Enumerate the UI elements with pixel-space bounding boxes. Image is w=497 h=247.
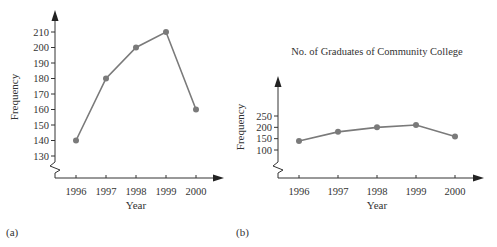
x-tick-label: 1996 [289,186,310,197]
x-tick-label: 1999 [406,186,427,197]
y-tick-label: 200 [256,122,272,133]
y-tick-label: 250 [256,111,272,122]
y-tick-label: 150 [33,120,49,131]
y-tick-label: 210 [33,27,49,38]
data-point [335,129,341,135]
chart-a-panel-label: (a) [6,226,19,239]
y-tick-label: 170 [33,89,49,100]
data-point [452,133,458,139]
chart-b-ylabel: Frequency [234,103,246,150]
data-point [374,124,380,130]
chart-a: 130140150160170180190200210 199619971998… [6,10,224,239]
chart-b-title: No. of Graduates of Community College [291,46,463,57]
data-point [296,138,302,144]
y-tick-label: 160 [33,104,49,115]
y-tick-label: 100 [256,145,272,156]
x-tick-label: 1999 [156,186,177,197]
chart-a-x-arrow-icon [213,175,224,182]
chart-b-x-arrow-icon [473,175,484,182]
chart-b-points [296,122,458,144]
y-tick-label: 190 [33,58,49,69]
data-point [163,29,169,35]
y-tick-label: 200 [33,42,49,53]
x-tick-label: 1997 [328,186,349,197]
data-point [413,122,419,128]
figure: 130140150160170180190200210 199619971998… [0,0,497,247]
x-tick-label: 2000 [186,186,207,197]
chart-a-y-arrow-icon [52,10,59,21]
y-tick-label: 180 [33,73,49,84]
y-tick-label: 140 [33,135,49,146]
x-tick-label: 2000 [445,186,466,197]
y-tick-label: 150 [256,133,272,144]
chart-b: No. of Graduates of Community College 10… [234,46,484,239]
chart-b-y-ticks: 100150200250 [256,111,278,156]
y-tick-label: 130 [33,151,49,162]
x-tick-label: 1996 [66,186,87,197]
chart-a-xlabel: Year [126,199,147,211]
chart-a-y-ticks: 130140150160170180190200210 [33,27,55,162]
chart-a-axis-break [50,162,60,178]
chart-a-points [73,29,199,144]
chart-a-ylabel: Frequency [8,73,20,120]
data-point [103,76,109,82]
x-tick-label: 1998 [367,186,388,197]
chart-b-y-arrow-icon [275,76,282,87]
data-point [133,45,139,51]
x-tick-label: 1997 [96,186,117,197]
chart-b-panel-label: (b) [236,226,249,239]
data-point [73,138,79,144]
data-point [193,107,199,113]
chart-b-axis-break [273,162,283,178]
chart-b-xlabel: Year [367,199,388,211]
x-tick-label: 1998 [126,186,147,197]
